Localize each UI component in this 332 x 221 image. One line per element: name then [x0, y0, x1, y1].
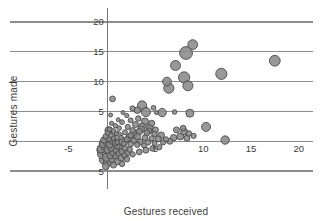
svg-text:10: 10 [198, 143, 209, 154]
y-axis-title: Gestures made [8, 51, 19, 171]
bubble-scatter-chart: -55101520 55101520 Gestures received Ges… [0, 0, 332, 221]
svg-text:-5: -5 [64, 143, 72, 154]
svg-text:5: 5 [98, 106, 103, 117]
svg-text:10: 10 [93, 76, 104, 87]
plot-area: -55101520 55101520 [0, 0, 332, 221]
svg-text:5: 5 [98, 166, 103, 177]
svg-text:5: 5 [153, 143, 158, 154]
svg-text:15: 15 [93, 46, 104, 57]
svg-text:20: 20 [93, 16, 104, 27]
x-axis-title: Gestures received [0, 206, 332, 217]
svg-text:15: 15 [246, 143, 257, 154]
svg-text:20: 20 [293, 143, 304, 154]
